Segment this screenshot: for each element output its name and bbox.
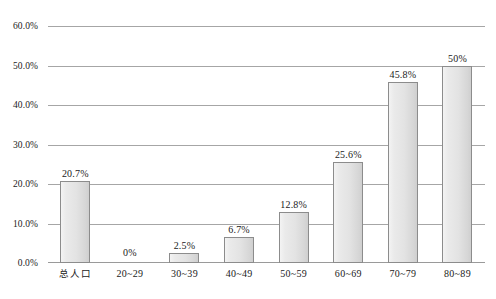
y-axis-tick-label: 40.0% (0, 100, 38, 110)
bar-30-39[interactable] (169, 253, 199, 263)
x-axis-category-label: 30~39 (157, 268, 212, 280)
bar-value-label: 0% (123, 247, 137, 258)
x-axis-category-label: 50~59 (266, 268, 321, 280)
bar-value-label: 45.8% (389, 69, 416, 80)
y-axis-tick-label: 10.0% (0, 219, 38, 229)
x-axis-category-label: 总人口 (48, 268, 103, 280)
y-axis-tick-label: 20.0% (0, 179, 38, 189)
y-axis-tick-label: 30.0% (0, 140, 38, 150)
bar-value-label: 25.6% (335, 149, 362, 160)
x-axis-category-label: 80~89 (430, 268, 485, 280)
bar-slot: 12.8% (266, 26, 321, 263)
y-axis-tick-label: 60.0% (0, 21, 38, 31)
bar-chart: 60.0% 50.0% 40.0% 30.0% 20.0% 10.0% 0.0%… (0, 0, 496, 299)
bar-slot: 45.8% (376, 26, 431, 263)
y-axis-tick-label: 50.0% (0, 61, 38, 71)
x-axis-category-label: 70~79 (376, 268, 431, 280)
bar-value-label: 12.8% (280, 199, 307, 210)
bar-value-label: 50% (448, 53, 467, 64)
plot-area: 20.7% 0% 2.5% 6.7% 12.8% 25.6% 45.8% (48, 26, 485, 263)
bar-slot: 2.5% (157, 26, 212, 263)
x-axis-category-label: 60~69 (321, 268, 376, 280)
bar-slot: 25.6% (321, 26, 376, 263)
bar-slot: 50% (430, 26, 485, 263)
bar-value-label: 6.7% (228, 224, 250, 235)
bar-slot: 20.7% (48, 26, 103, 263)
bar-50-59[interactable] (279, 212, 309, 263)
bar-value-label: 20.7% (62, 168, 89, 179)
bar-value-label: 2.5% (174, 240, 196, 251)
bar-slot: 6.7% (212, 26, 267, 263)
x-axis-category-label: 40~49 (212, 268, 267, 280)
bar-40-49[interactable] (224, 237, 254, 264)
bar-total-population[interactable] (60, 181, 90, 263)
bar-slot: 0% (103, 26, 158, 263)
bar-80-89[interactable] (442, 66, 472, 264)
bar-60-69[interactable] (333, 162, 363, 263)
y-axis-tick-label: 0.0% (0, 258, 38, 268)
bar-70-79[interactable] (388, 82, 418, 263)
x-axis-category-label: 20~29 (103, 268, 158, 280)
